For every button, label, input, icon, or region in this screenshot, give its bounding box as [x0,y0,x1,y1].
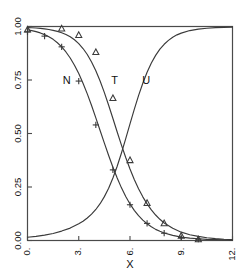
chart-background [0,0,249,271]
x-tick-label: 0. [21,248,32,256]
y-tick-label: 1.00 [12,17,23,36]
x-tick-label: 9. [175,248,186,256]
line-chart: 0.3.6.9.12. 0.000.250.500.751.00 NTU X [0,0,249,271]
curve-label-t: T [111,74,118,86]
y-tick-label: 0.50 [12,124,23,143]
x-axis-title: X [126,258,134,270]
chart-figure: 0.3.6.9.12. 0.000.250.500.751.00 NTU X [0,0,249,271]
y-tick-label: 0.75 [12,71,23,90]
x-tick-label: 6. [124,248,135,256]
curve-label-u: U [142,74,150,86]
curve-label-n: N [63,74,71,86]
y-tick-label: 0.25 [12,178,23,197]
x-tick-label: 12. [226,248,237,261]
x-tick-label: 3. [72,248,83,256]
y-tick-label: 0.00 [12,231,23,250]
